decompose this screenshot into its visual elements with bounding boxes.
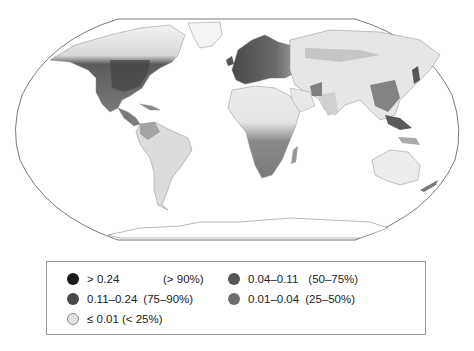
- legend-percent: (50–75%): [308, 273, 358, 285]
- legend-swatch-mid-low: [228, 293, 240, 305]
- legend-item: 0.11–0.24 (75–90%): [67, 293, 193, 305]
- legend-percent: (75–90%): [143, 293, 193, 305]
- legend-swatch-low: [67, 313, 79, 325]
- legend-item: 0.01–0.04 (25–50%): [228, 293, 355, 305]
- legend-swatch-mid-high: [228, 273, 240, 285]
- legend-percent: (25–50%): [305, 293, 355, 305]
- legend-item: ≤ 0.01 (< 25%): [67, 313, 162, 325]
- world-map: [0, 0, 474, 255]
- legend-range: 0.01–0.04: [248, 293, 299, 305]
- legend-range: 0.04–0.11: [248, 273, 298, 285]
- legend-percent: (> 90%): [163, 273, 204, 285]
- legend: > 0.24 (> 90%) 0.11–0.24 (75–90%) ≤ 0.01…: [46, 261, 426, 335]
- legend-range: ≤ 0.01: [87, 313, 119, 325]
- legend-range: > 0.24: [87, 273, 157, 285]
- legend-range: 0.11–0.24: [87, 293, 137, 305]
- legend-swatch-very-high: [67, 273, 79, 285]
- legend-swatch-high: [67, 293, 79, 305]
- legend-item: > 0.24 (> 90%): [67, 273, 204, 285]
- legend-item: 0.04–0.11 (50–75%): [228, 273, 358, 285]
- legend-percent: (< 25%): [122, 313, 163, 325]
